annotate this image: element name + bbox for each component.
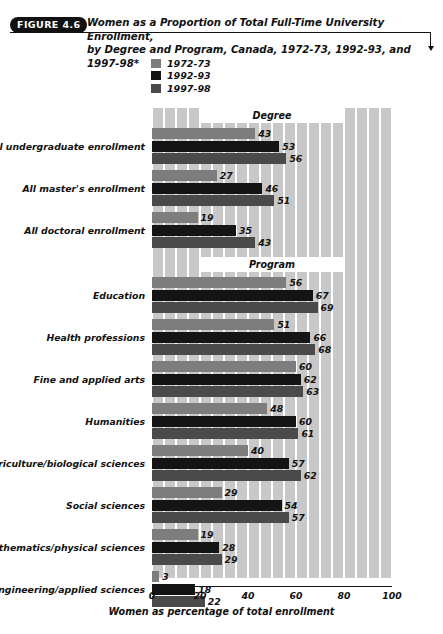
- bar: [152, 344, 315, 355]
- x-tick-label: 80: [338, 590, 351, 601]
- bar: [152, 500, 282, 511]
- category-label: Engineering/applied sciences: [0, 584, 145, 595]
- bar: [152, 529, 198, 540]
- bars-layer: Degree435356All undergraduate enrollment…: [152, 108, 392, 578]
- bar: [152, 542, 219, 553]
- bar-value-label: 68: [318, 344, 331, 355]
- bar-value-label: 69: [321, 302, 334, 313]
- bar-value-label: 29: [225, 554, 238, 565]
- x-tick-label: 100: [382, 590, 401, 601]
- category-label: Mathematics/physical sciences: [0, 542, 145, 553]
- bar: [152, 470, 301, 481]
- title-arrow-icon: [428, 46, 434, 51]
- bar-value-label: 60: [299, 416, 312, 427]
- bar: [152, 512, 289, 523]
- legend-swatch-icon: [151, 59, 161, 68]
- chart-legend: 1972-731992-931997-98: [151, 57, 211, 95]
- bar-value-label: 51: [277, 319, 290, 330]
- bar-value-label: 56: [289, 277, 302, 288]
- bar: [152, 212, 198, 223]
- category-label: All doctoral enrollment: [24, 225, 145, 236]
- category-label: Education: [93, 290, 145, 301]
- bar: [152, 290, 313, 301]
- category-label: All master's enrollment: [22, 183, 145, 194]
- section-header-degree: Degree: [200, 108, 344, 123]
- bar: [152, 141, 279, 152]
- legend-swatch-icon: [151, 84, 161, 93]
- bar: [152, 458, 289, 469]
- x-axis-line: [152, 586, 392, 587]
- bar-value-label: 61: [301, 428, 314, 439]
- bar-value-label: 63: [306, 386, 319, 397]
- bar-value-label: 3: [162, 571, 168, 582]
- bar: [152, 128, 255, 139]
- bar-value-label: 57: [292, 512, 305, 523]
- bar-value-label: 56: [289, 153, 302, 164]
- bar-value-label: 46: [265, 183, 278, 194]
- bar: [152, 487, 222, 498]
- bar: [152, 170, 217, 181]
- bar: [152, 195, 274, 206]
- legend-label: 1992-93: [167, 70, 211, 81]
- legend-swatch-icon: [151, 71, 161, 80]
- bar: [152, 183, 262, 194]
- title-line-1: Women as a Proportion of Total Full-Time…: [87, 16, 417, 43]
- bar-value-label: 66: [313, 332, 326, 343]
- bar: [152, 361, 296, 372]
- bar: [152, 445, 248, 456]
- bar: [152, 403, 267, 414]
- x-tick-label: 40: [242, 590, 255, 601]
- legend-item: 1992-93: [151, 70, 211, 83]
- figure-title-block: FIGURE 4.6 Women as a Proportion of Tota…: [0, 16, 443, 50]
- category-label: Humanities: [85, 416, 145, 427]
- bar-value-label: 53: [282, 141, 295, 152]
- bar: [152, 237, 255, 248]
- bar-value-label: 57: [292, 458, 305, 469]
- legend-label: 1997-98: [167, 83, 211, 94]
- page-title: Women as a Proportion of Total Full-Time…: [87, 16, 417, 70]
- bar-value-label: 27: [220, 170, 233, 181]
- bar: [152, 416, 296, 427]
- bar-value-label: 19: [201, 212, 214, 223]
- x-tick-label: 0: [149, 590, 155, 601]
- bar-value-label: 48: [270, 403, 283, 414]
- bar-value-label: 40: [251, 445, 264, 456]
- bar-value-label: 51: [277, 195, 290, 206]
- bar-value-label: 29: [225, 487, 238, 498]
- bar-value-label: 62: [304, 470, 317, 481]
- category-label: Fine and applied arts: [34, 374, 145, 385]
- bar-value-label: 54: [285, 500, 298, 511]
- legend-item: 1997-98: [151, 82, 211, 95]
- bar: [152, 571, 159, 582]
- bar: [152, 428, 298, 439]
- category-label: All undergraduate enrollment: [0, 141, 145, 152]
- bar-value-label: 60: [299, 361, 312, 372]
- bar-value-label: 28: [222, 542, 235, 553]
- title-line-2: by Degree and Program, Canada, 1972-73, …: [87, 43, 417, 70]
- figure-number-badge: FIGURE 4.6: [10, 17, 87, 33]
- section-header-program: Program: [200, 257, 344, 272]
- x-axis-title: Women as percentage of total enrollment: [0, 606, 443, 617]
- bar: [152, 225, 236, 236]
- bar: [152, 153, 286, 164]
- bar-value-label: 19: [201, 529, 214, 540]
- bar: [152, 554, 222, 565]
- bar: [152, 386, 303, 397]
- chart-plot-area: Degree435356All undergraduate enrollment…: [152, 108, 392, 578]
- bar-value-label: 35: [239, 225, 252, 236]
- category-label: Social sciences: [66, 500, 145, 511]
- legend-item: 1972-73: [151, 57, 211, 70]
- bar: [152, 319, 274, 330]
- category-label: Health professions: [46, 332, 145, 343]
- bar-value-label: 62: [304, 374, 317, 385]
- bar: [152, 302, 318, 313]
- bar: [152, 374, 301, 385]
- bar-value-label: 43: [258, 128, 271, 139]
- x-tick-label: 60: [290, 590, 303, 601]
- category-label: Agriculture/biological sciences: [0, 458, 145, 469]
- bar-value-label: 43: [258, 237, 271, 248]
- bar: [152, 332, 310, 343]
- x-tick-label: 20: [194, 590, 207, 601]
- bar-value-label: 67: [316, 290, 329, 301]
- legend-label: 1972-73: [167, 58, 211, 69]
